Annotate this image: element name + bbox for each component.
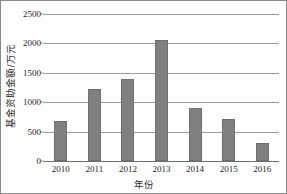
bar xyxy=(189,108,202,162)
x-tick-label: 2013 xyxy=(153,164,171,174)
bar xyxy=(222,119,235,161)
bar-series xyxy=(44,14,279,161)
y-tick-label: 1000 xyxy=(23,97,41,107)
bar xyxy=(155,40,168,161)
x-tick-label: 2012 xyxy=(119,164,137,174)
x-tick-label: 2016 xyxy=(253,164,271,174)
y-tick-label: 0 xyxy=(37,156,42,166)
y-tick-label: 2000 xyxy=(23,38,41,48)
x-tick-label: 2015 xyxy=(220,164,238,174)
x-tick-label: 2014 xyxy=(186,164,204,174)
bar xyxy=(88,89,101,161)
y-tick-label: 2500 xyxy=(23,9,41,19)
bar-chart-figure: 基金资助金额/万元 05001000150020002500 201020112… xyxy=(0,0,287,194)
x-axis-line xyxy=(44,161,279,162)
x-tick-label: 2011 xyxy=(86,164,104,174)
y-axis-title-text: 基金资助金额/万元 xyxy=(3,44,17,127)
bar xyxy=(256,143,269,161)
x-tick-label: 2010 xyxy=(52,164,70,174)
bar xyxy=(54,121,67,161)
y-tick-label: 500 xyxy=(28,127,42,137)
plot-area: 05001000150020002500 xyxy=(44,14,279,161)
y-tick-label: 1500 xyxy=(23,68,41,78)
bar xyxy=(121,79,134,161)
x-axis-title: 年份 xyxy=(1,177,286,191)
y-axis-title: 基金资助金额/万元 xyxy=(3,1,17,171)
